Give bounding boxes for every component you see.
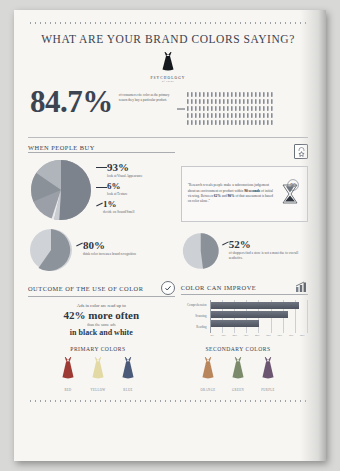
buy-leaders: 93% look at Visual Appearance 6% look at… [96,162,143,217]
chart-plot-area [210,300,308,333]
leader-line [96,187,107,188]
chart-category-0: Comprehension [181,300,207,311]
outcome-header: OUTCOME OF THE USE OF COLOR [28,281,175,297]
chart-x-tick-labels: 0% 10% 20% 30% 40% 50% 60% 70% 80% [207,334,308,337]
star-lock-icon [294,144,308,159]
dress-icon [56,355,80,383]
when-people-buy-header: WHEN PEOPLE BUY [28,144,175,153]
outcome-copy: Ads in color are read up to 42% more oft… [28,303,175,337]
buy-value-2: 1% [103,200,134,209]
swatch-name-blue: BLUE [116,388,140,392]
brand-recognition-caption: think color increases brand recognition [83,252,136,257]
outcome-line-2: 42% more often [28,309,175,321]
swatch-name-red: RED [56,388,80,392]
chart-category-1: Scanning [181,311,207,322]
main-columns: WHEN PEOPLE BUY [28,138,308,273]
improve-column: COLOR CAN IMPROVE Comprehension Scanni [181,275,308,337]
chart-tick-4: 40% [252,334,263,337]
badge-row [181,144,308,160]
dress-logo-icon [155,49,181,75]
dress-icon [226,355,250,383]
brand-recognition-pie [28,227,74,273]
chart-bar-2 [211,320,260,327]
swatch-name-yellow: YELLOW [86,388,110,392]
buy-caption-1: look at Texture [107,192,127,197]
check-circle-icon [161,281,175,295]
primary-colors-group: PRIMARY COLORS RED YEL [28,346,168,392]
outcome-line-1: Ads in color are read up to [28,303,175,308]
swatch-name-purple: PURPLE [256,388,280,392]
leader-line [96,202,103,206]
dress-icon [86,355,110,383]
swatch-orange: ORANGE [196,355,220,392]
outcome-column: OUTCOME OF THE USE OF COLOR Ads in color… [28,275,175,337]
swatch-green: GREEN [226,355,250,392]
outcome-heading: OUTCOME OF THE USE OF COLOR [28,285,143,292]
improve-header: COLOR CAN IMPROVE [181,281,308,295]
dress-icon [256,355,280,383]
improve-bar-chart: Comprehension Scanning Reading [181,300,308,333]
buy-pie-chart [28,157,94,223]
improve-heading: COLOR CAN IMPROVE [181,284,257,291]
secondary-swatch-row: ORANGE GREEN PURPLE [168,355,308,392]
top-dotted-rule [28,20,308,24]
brand-recognition-value: 80% [83,240,136,251]
hourglass-icon: 90 [279,179,301,209]
palette-section: PRIMARY COLORS RED YEL [28,346,308,392]
infographic-poster: WHAT ARE YOUR BRAND COLORS SAYING? PSYCH… [14,10,326,461]
when-people-buy-heading: WHEN PEOPLE BUY [28,144,95,151]
swatch-name-orange: ORANGE [196,388,220,392]
list-item: 80% think color increases brand recognit… [76,240,136,257]
buy-value-0: 93% [107,162,143,173]
list-item: 93% look at Visual Appearance [96,162,143,179]
quote-seconds: 90 seconds [244,189,260,193]
chart-tick-8: 80% [297,334,308,337]
swatch-name-green: GREEN [226,388,250,392]
brand-logo: PSYCHOLOGY of color [28,49,308,83]
dress-icon [196,355,220,383]
leader-line [222,241,228,245]
shoppers-pie [181,230,221,272]
chart-tick-1: 10% [218,334,229,337]
primary-swatch-row: RED YELLOW BLUE [28,355,168,392]
chart-tick-5: 50% [263,334,274,337]
hero-stat-row: 84.7% of consumers cite color as the pri… [28,86,308,134]
swatch-yellow: YELLOW [86,355,110,392]
hero-stat-value: 84.7% [30,86,113,117]
buy-caption-0: look at Visual Appearance [107,174,143,179]
chart-tick-2: 20% [229,334,240,337]
research-quote-box: "Research reveals people make a subconsc… [181,166,308,222]
shoppers-leader: 52% of shoppers find a store is not a mu… [222,239,308,264]
quote-part-3: and [221,194,228,198]
bar-chart-icon [295,281,308,293]
brand-recognition-leader: 80% think color increases brand recognit… [76,240,136,260]
outcome-line-3: than the same ads [28,322,175,327]
chart-category-2: Reading [181,322,207,333]
shoppers-block: 52% of shoppers find a store is not a mu… [181,230,308,272]
bottom-dotted-rule [28,398,308,402]
logo-sub-text: of color [28,80,308,83]
people-grid-icon [177,89,285,133]
shoppers-caption: of shoppers find a store is not a must d… [229,251,308,261]
swatch-red: RED [56,355,80,392]
swatch-purple: PURPLE [256,355,280,392]
chart-bar-1 [211,311,288,318]
chart-category-labels: Comprehension Scanning Reading [181,300,210,333]
buy-value-1: 6% [107,182,127,191]
bottom-columns: OUTCOME OF THE USE OF COLOR Ads in color… [28,275,308,337]
right-column: "Research reveals people make a subconsc… [181,138,308,273]
dress-icon [116,355,140,383]
chart-bars [211,302,308,327]
leader-line [76,243,83,247]
list-item: 1% decide on Sound/Smell [96,200,143,215]
swatch-blue: BLUE [116,355,140,392]
secondary-colors-heading: SECONDARY COLORS [168,346,308,352]
list-item: 52% of shoppers find a store is not a mu… [222,239,308,261]
buy-pie-block: 93% look at Visual Appearance 6% look at… [28,157,175,223]
leader-line [96,167,107,168]
brand-recognition-block: 80% think color increases brand recognit… [28,227,175,273]
primary-colors-heading: PRIMARY COLORS [28,346,168,352]
quote-range-low: 62% [214,194,221,198]
chart-tick-3: 30% [240,334,251,337]
left-column: WHEN PEOPLE BUY [28,138,175,273]
